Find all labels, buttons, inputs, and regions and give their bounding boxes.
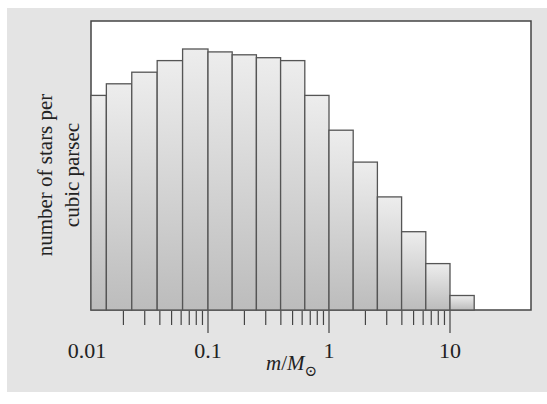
histogram-bar	[232, 55, 256, 310]
histogram-bar	[208, 52, 232, 310]
histogram-bar	[305, 95, 329, 310]
x-tick-label: 0.01	[68, 338, 107, 363]
x-axis-label-m: m	[266, 351, 281, 375]
x-tick-label: 10	[439, 338, 461, 363]
histogram-bar	[157, 61, 182, 310]
y-axis-label-line1: number of stars per	[33, 94, 57, 257]
histogram-bar	[281, 61, 305, 310]
histogram-bar	[256, 58, 280, 310]
histogram-bar	[402, 232, 426, 310]
x-tick-label: 0.1	[194, 338, 222, 363]
y-axis-label-line2: cubic parsec	[60, 123, 84, 227]
y-axis-label: number of stars per cubic parsec	[33, 94, 84, 257]
histogram-bar	[106, 84, 131, 310]
svg-text:m/M⊙: m/M⊙	[266, 351, 317, 379]
histogram-bar	[353, 162, 377, 310]
histogram-bar	[329, 130, 353, 310]
histogram-bar	[132, 72, 157, 310]
x-axis-ticks	[123, 311, 450, 333]
x-axis-label: m/M⊙	[266, 351, 317, 379]
histogram-bar	[450, 296, 474, 311]
x-axis-tick-labels: 0.010.1110	[68, 338, 461, 363]
histogram-bar	[91, 95, 106, 310]
histogram-chart: 0.010.1110 number of stars per cubic par…	[0, 0, 547, 404]
x-tick-label: 1	[324, 338, 335, 363]
histogram-bar	[377, 197, 401, 310]
histogram-bar	[183, 49, 208, 310]
sun-symbol-icon: ⊙	[305, 363, 318, 379]
histogram-bar	[426, 264, 450, 310]
